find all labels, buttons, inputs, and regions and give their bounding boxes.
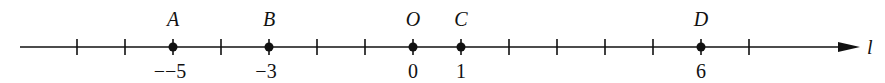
point-c-dot	[457, 43, 466, 52]
point-d-dot	[697, 43, 706, 52]
point-a-label: A	[165, 8, 180, 30]
point-d-label: D	[693, 8, 709, 30]
points: A−−5B−3O0C1D6	[154, 8, 709, 82]
number-line-diagram: l A−−5B−3O0C1D6	[0, 0, 885, 83]
point-b-value: −3	[255, 60, 276, 82]
point-a-dot	[169, 43, 178, 52]
point-a-value: −−5	[154, 60, 187, 82]
point-o-label: O	[406, 8, 420, 30]
line-label: l	[867, 36, 873, 58]
point-b-label: B	[263, 8, 275, 30]
arrowhead-icon	[838, 42, 860, 52]
point-o-value: 0	[408, 60, 418, 82]
point-c-label: C	[454, 8, 468, 30]
point-b-dot	[265, 43, 274, 52]
point-d-value: 6	[696, 60, 706, 82]
point-c-value: 1	[456, 60, 466, 82]
point-o-dot	[409, 43, 418, 52]
